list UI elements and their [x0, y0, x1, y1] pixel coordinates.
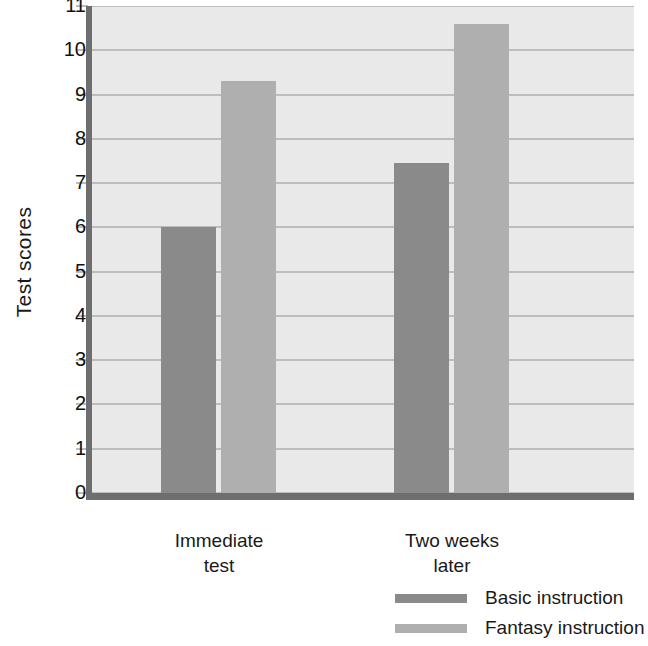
- bar: [161, 227, 216, 493]
- y-tick-label: 6: [56, 216, 86, 236]
- x-axis-line: [86, 493, 634, 500]
- y-axis-title: Test scores: [12, 172, 36, 352]
- y-tick-label: 5: [56, 261, 86, 281]
- y-tick-label: 2: [56, 393, 86, 413]
- gridline: [92, 94, 634, 96]
- x-category-label: Two weeks later: [362, 528, 542, 578]
- legend: Basic instruction Fantasy instruction: [395, 583, 644, 643]
- gridline: [92, 182, 634, 184]
- y-axis-line: [86, 6, 92, 497]
- y-tick-label: 11: [56, 0, 86, 15]
- gridline: [92, 6, 634, 7]
- y-tick-label: 7: [56, 172, 86, 192]
- bar: [221, 81, 276, 493]
- bar-chart: Test scores 01234567891011 Immediate tes…: [0, 0, 648, 646]
- legend-label-fantasy: Fantasy instruction: [485, 617, 644, 639]
- y-tick-label: 9: [56, 84, 86, 104]
- y-tick-label: 8: [56, 128, 86, 148]
- legend-swatch-fantasy: [395, 624, 467, 633]
- x-category-label: Immediate test: [129, 528, 309, 578]
- y-tick-label: 10: [56, 39, 86, 59]
- y-tick-label: 3: [56, 349, 86, 369]
- bar: [454, 24, 509, 493]
- y-tick-label: 4: [56, 305, 86, 325]
- legend-item-fantasy: Fantasy instruction: [395, 613, 644, 643]
- gridline: [92, 49, 634, 51]
- legend-item-basic: Basic instruction: [395, 583, 644, 613]
- legend-label-basic: Basic instruction: [485, 587, 623, 609]
- y-tick-label: 0: [56, 482, 86, 502]
- bar: [394, 163, 449, 493]
- plot-area: [92, 6, 634, 493]
- y-tick-label: 1: [56, 438, 86, 458]
- gridline: [92, 138, 634, 140]
- legend-swatch-basic: [395, 594, 467, 603]
